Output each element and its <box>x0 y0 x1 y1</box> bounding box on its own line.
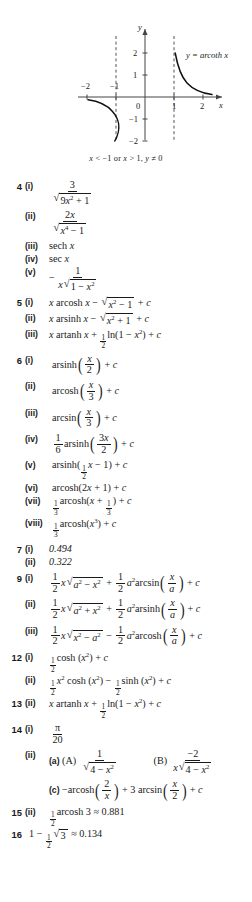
part-label: (iv) <box>25 253 49 264</box>
answer-body: 12arcosh 3 ≈ 0.881 <box>49 806 246 827</box>
answers-page: y x 0 −2 −1 1 2 2 1 −1 −2 y = arcoth x x… <box>0 0 252 902</box>
answer-row: (ii) (a) (A) 1√4 − x2 (B) −2x√4 − x2 <box>6 749 246 775</box>
denominator: √9x2 + 1 <box>51 192 95 206</box>
answer-row: (ii) x arsinh x − √x2 + 1 + c <box>6 312 246 327</box>
part-label: (i) <box>25 296 49 307</box>
answer-row: (iv) sec x <box>6 253 246 265</box>
figure-caption: x < −1 or x > 1, y ≠ 0 <box>0 154 252 163</box>
x-axis-label: x <box>218 100 223 110</box>
answer-body: 13arcosh(x3) + c <box>52 517 246 539</box>
part-label: (iii) <box>25 328 49 339</box>
curve-left-branch <box>88 100 119 141</box>
answer-body: x arsinh x − √x2 + 1 + c <box>49 312 246 327</box>
sublabel-a: (a) <box>49 757 60 767</box>
answer-row: 5 (i) x arcosh x − √x2 − 1 + c <box>6 296 246 311</box>
part-label: (i) <box>25 723 49 734</box>
origin-label: 0 <box>136 101 140 111</box>
answer-body: 12cosh (x2) + c <box>49 651 246 673</box>
answer-row: 16 1 − 12√3 ≈ 0.134 <box>6 828 246 850</box>
y-tick-label-neg1: −1 <box>129 114 138 124</box>
arcoth-graph-svg: y x 0 −2 −1 1 2 2 1 −1 −2 y = arcoth x <box>0 0 252 150</box>
part-label: (i) <box>25 543 49 554</box>
answer-body: − 1 x√1 − x2 <box>49 266 246 292</box>
numerator: 2x <box>63 210 77 222</box>
sublabel-A: (A) <box>62 756 76 767</box>
part-label: (ii) <box>25 210 49 221</box>
answer-body: 0.494 <box>49 543 246 555</box>
answer-body: 0.322 <box>49 556 246 568</box>
question-number: 13 <box>6 697 25 709</box>
part-label: (vii) <box>25 495 52 506</box>
sublabel-B: (B) <box>154 756 168 767</box>
answer-body: arcosh(x3) + c <box>52 380 246 402</box>
numerator: 3 <box>68 180 77 192</box>
answer-body: 2x √x4 − 1 <box>49 210 246 236</box>
x-tick-label-neg2: −2 <box>81 81 90 91</box>
caption-neq0: ≠ 0 <box>149 154 162 163</box>
part-label: (iii) <box>25 240 49 251</box>
answer-row: 13 (ii) x artanh x + 12ln(1 − x2) + c <box>6 697 246 719</box>
answer-row: (ii) arcosh(x3) + c <box>6 380 246 402</box>
answer-row: (vii) 13arcosh(x + 13) + c <box>6 495 246 516</box>
fraction: 3 √9x2 + 1 <box>51 180 95 206</box>
answer-body: x arcosh x − √x2 − 1 + c <box>49 296 246 311</box>
part-label: (i) <box>25 651 49 662</box>
question-number: 9 <box>6 572 25 584</box>
y-axis-label: y <box>137 22 142 32</box>
part-label: (viii) <box>25 517 52 528</box>
part-label: (ii) <box>25 556 49 567</box>
question-number: 14 <box>6 723 25 735</box>
answer-row: (ii) 2x √x4 − 1 <box>6 210 246 236</box>
graph-figure: y x 0 −2 −1 1 2 2 1 −1 −2 y = arcoth x x… <box>0 0 252 178</box>
caption-neg1: −1 or <box>103 154 124 163</box>
denominator: √x4 − 1 <box>51 222 90 236</box>
y-axis <box>142 29 147 140</box>
answer-row: (ii) 12x√a2 + x2 + 12a2arsinh(xa) + c <box>6 598 246 620</box>
answer-row: 6 (i) arsinh(x2) + c <box>6 354 246 376</box>
pi-symbol: π <box>53 723 62 735</box>
answer-row: (iii) arcsin(x3) + c <box>6 407 246 429</box>
denominator: x√1 − x2 <box>56 278 99 292</box>
answer-body: 12x√a2 − x2 + 12a2arcsin(xa) + c <box>49 572 246 594</box>
part-label: (ii) <box>25 749 49 760</box>
answer-body: 16arsinh(3x2) + c <box>52 433 246 455</box>
answer-row: 7 (i) 0.494 <box>6 543 246 555</box>
answer-body: x artanh x + 12ln(1 − x2) + c <box>49 328 246 350</box>
part-label: (i) <box>25 180 49 191</box>
answers-list: 4 (i) 3 √9x2 + 1 (ii) 2x √x4 − 1 (iii) <box>0 178 252 850</box>
x-axis <box>78 94 222 99</box>
question-number: 4 <box>6 180 25 192</box>
part-label: (iii) <box>25 625 49 636</box>
part-label: (v) <box>25 266 49 277</box>
part-label: (ii) <box>25 598 49 609</box>
answer-row: (v) − 1 x√1 − x2 <box>6 266 246 292</box>
numerator: 1 <box>73 266 82 278</box>
answer-body: sech x <box>49 240 246 252</box>
part-label: (vi) <box>25 482 52 493</box>
fraction: 2x √x4 − 1 <box>51 210 90 236</box>
question-number: 12 <box>6 651 25 663</box>
question-number: 7 <box>6 543 25 555</box>
answer-row: (ii) 12x2 cosh (x2) − 12sinh (x2) + c <box>6 674 246 696</box>
answer-row: (viii) 13arcosh(x3) + c <box>6 517 246 539</box>
part-label: (ii) <box>25 674 49 685</box>
answer-body: (c) −arcosh(2x) + 3 arcsin(x2) + c <box>49 779 246 801</box>
answer-body: π20 <box>49 723 246 745</box>
answer-row: 4 (i) 3 √9x2 + 1 <box>6 180 246 206</box>
y-tick-label-neg2: −2 <box>129 136 138 146</box>
part-label: (v) <box>25 459 52 470</box>
y-tick-label-1: 1 <box>133 70 137 80</box>
answer-body: arcsin(x3) + c <box>52 407 246 429</box>
part-label: (i) <box>25 354 52 365</box>
caption-lt: < <box>93 154 102 163</box>
answer-row: 9 (i) 12x√a2 − x2 + 12a2arcsin(xa) + c <box>6 572 246 594</box>
answer-row: (iv) 16arsinh(3x2) + c <box>6 433 246 455</box>
answer-body: arsinh(x2) + c <box>52 354 246 376</box>
part-label: (ii) <box>25 312 49 323</box>
answer-body: 1 − 12√3 ≈ 0.134 <box>25 828 246 850</box>
question-number: 5 <box>6 296 25 308</box>
answer-row: 14 (i) π20 <box>6 723 246 745</box>
answer-body: 12x√x2 − a2 − 12a2arcosh(xa) + c <box>49 625 246 647</box>
question-number: 15 <box>6 806 25 818</box>
answer-row: 12 (i) 12cosh (x2) + c <box>6 651 246 673</box>
